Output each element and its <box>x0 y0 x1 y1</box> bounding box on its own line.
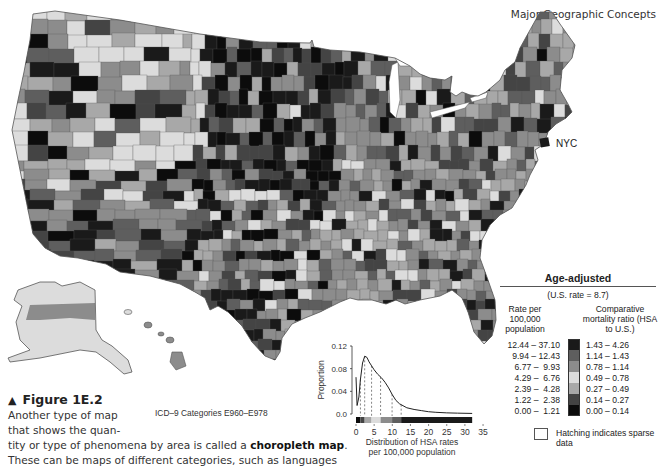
svg-text:35: 35 <box>478 427 488 437</box>
ratio-range: 1.14 – 1.43 <box>586 351 656 361</box>
legend-class-row: 12.44 – 37.101.43 – 4.26 <box>494 339 662 350</box>
figure-caption: ▲Figure 1E.2 <box>8 392 103 407</box>
class-swatch <box>568 405 580 416</box>
legend-class-row: 9.94 – 12.431.14 – 1.43 <box>494 350 662 361</box>
rate-range: 1.22 – 2.38 <box>494 395 560 405</box>
rate-range: 9.94 – 12.43 <box>494 351 560 361</box>
svg-text:0.04: 0.04 <box>331 387 347 396</box>
legend-class-row: 4.29 – 6.760.49 – 0.78 <box>494 372 662 383</box>
rate-range: 2.39 – 4.28 <box>494 384 560 394</box>
hatching-note: Hatching indicates sparse data <box>556 428 662 448</box>
class-swatch <box>568 372 580 383</box>
legend-class-row: 0.00 – 1.210.00 – 0.14 <box>494 405 662 416</box>
legend-class-row: 1.22 – 2.380.14 – 0.27 <box>494 394 662 405</box>
ratio-column-header: Comparative mortality ratio (HSA to U.S.… <box>580 304 660 334</box>
class-swatch <box>568 383 580 394</box>
svg-text:0.0: 0.0 <box>336 410 348 419</box>
choropleth-term: choropleth map <box>250 439 344 451</box>
svg-text:10: 10 <box>388 427 398 437</box>
caption-line-2: that shows the quan- <box>8 423 120 438</box>
ratio-range: 1.43 – 4.26 <box>586 340 656 350</box>
svg-text:20: 20 <box>424 427 434 437</box>
map-legend: Age-adjusted (U.S. rate = 8.7) Rate per … <box>494 272 662 448</box>
svg-text:per 100,000 population: per 100,000 population <box>369 447 456 457</box>
nyc-inset-marker <box>539 137 549 147</box>
legend-class-row: 2.39 – 4.280.27 – 0.49 <box>494 383 662 394</box>
hawaii <box>124 310 186 371</box>
svg-text:Proportion: Proportion <box>316 360 326 399</box>
class-swatch <box>568 339 580 350</box>
svg-text:Distribution of HSA rates: Distribution of HSA rates <box>366 437 459 447</box>
ratio-range: 0.00 – 0.14 <box>586 406 656 416</box>
svg-text:15: 15 <box>406 427 416 437</box>
svg-text:0: 0 <box>354 427 359 437</box>
caption-line-1: Another type of map <box>8 408 118 423</box>
hatching-swatch <box>534 428 548 440</box>
caption-line-4-cutoff: These can be maps of different categorie… <box>8 453 337 468</box>
alaska <box>0 278 140 378</box>
class-swatch <box>568 350 580 361</box>
ratio-range: 0.49 – 0.78 <box>586 373 656 383</box>
rate-range: 12.44 – 37.10 <box>494 340 560 350</box>
svg-text:30: 30 <box>460 427 470 437</box>
svg-text:25: 25 <box>442 427 452 437</box>
svg-text:0.08: 0.08 <box>331 365 347 374</box>
ratio-range: 0.78 – 1.14 <box>586 362 656 372</box>
legend-subtitle: (U.S. rate = 8.7) <box>494 290 662 300</box>
svg-text:5: 5 <box>372 427 377 437</box>
legend-title: Age-adjusted <box>500 272 656 287</box>
ratio-range: 0.27 – 0.49 <box>586 384 656 394</box>
rate-column-header: Rate per 100,000 population <box>494 304 556 334</box>
icd-note: ICD–9 Categories E960–E978 <box>155 408 268 418</box>
figure-label: ▲Figure 1E.2 <box>8 392 103 407</box>
legend-classes: 12.44 – 37.101.43 – 4.26 9.94 – 12.431.1… <box>494 339 662 416</box>
rate-range: 0.00 – 1.21 <box>494 406 560 416</box>
legend-class-row: 6.77 – 9.930.78 – 1.14 <box>494 361 662 372</box>
nyc-label: NYC <box>556 138 577 149</box>
rate-range: 6.77 – 9.93 <box>494 362 560 372</box>
class-swatch <box>568 394 580 405</box>
class-swatch <box>568 361 580 372</box>
caption-line-3: tity or type of phenomena by area is cal… <box>8 438 348 453</box>
ratio-range: 0.14 – 0.27 <box>586 395 656 405</box>
svg-text:0.12: 0.12 <box>331 342 347 351</box>
triangle-icon: ▲ <box>8 394 16 407</box>
rate-range: 4.29 – 6.76 <box>494 373 560 383</box>
